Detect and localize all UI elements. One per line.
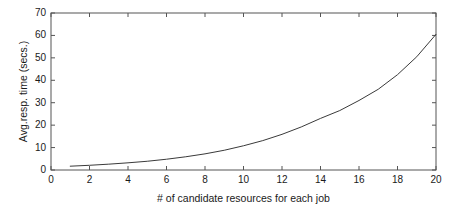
tick-marks	[51, 13, 436, 170]
plot-area	[0, 0, 451, 213]
data-line-avg-response-time	[70, 34, 436, 166]
chart-figure: Avg.resp. time (secs.) 70 60 50 40 30 20…	[0, 0, 451, 213]
plot-frame	[51, 13, 436, 170]
